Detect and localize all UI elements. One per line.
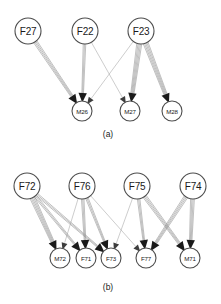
node-label-M72: M72 <box>54 255 66 262</box>
edge-line <box>148 42 167 93</box>
edge-F23-to-M26 <box>87 41 133 104</box>
edge-F76-to-F73 <box>86 198 108 251</box>
node-label-F23: F23 <box>133 26 150 37</box>
edge-line <box>116 198 132 243</box>
node-F77[interactable]: F77 <box>136 248 156 268</box>
edge-line <box>34 43 71 97</box>
edge-line <box>134 44 142 93</box>
node-label-F74: F74 <box>185 181 202 192</box>
edge-F22-to-M27 <box>91 42 125 103</box>
edge-F22-to-M26 <box>78 44 86 103</box>
panel-caption-panel-a: (a) <box>103 129 114 139</box>
node-M72[interactable]: M72 <box>50 248 70 268</box>
node-M71[interactable]: M71 <box>180 248 200 268</box>
node-M26[interactable]: M26 <box>72 101 92 121</box>
node-label-F73: F73 <box>106 255 117 262</box>
edge-line <box>35 197 54 241</box>
edge-F72-to-M72 <box>30 197 56 250</box>
node-label-F27: F27 <box>20 26 37 37</box>
node-label-M27: M27 <box>124 108 136 115</box>
node-label-F72: F72 <box>19 181 36 192</box>
edge-line <box>36 41 72 95</box>
panel-caption-panel-b: (b) <box>103 282 114 292</box>
edge-F76-to-F71 <box>81 199 89 250</box>
edge-F23-to-M27 <box>128 44 141 103</box>
panel-a-edge-layer <box>34 41 170 104</box>
edge-line <box>38 194 98 246</box>
panel-b: F72F76F75F74M72F71F73F77M71(b) <box>14 173 206 292</box>
edge-line <box>147 43 166 94</box>
node-F74[interactable]: F74 <box>180 173 206 199</box>
edge-line <box>34 197 74 245</box>
edge-line <box>145 44 165 95</box>
node-F23[interactable]: F23 <box>128 18 154 44</box>
edge-line <box>91 42 122 97</box>
edge-line <box>88 198 105 241</box>
edge-F75-to-F73 <box>113 198 132 250</box>
panel-a: F27F22F23M26M27M28(a) <box>15 18 182 139</box>
pedigree-network-figure: F27F22F23M26M27M28(a)F72F76F75F74M72F71F… <box>0 0 221 304</box>
edge-line <box>145 196 179 243</box>
edge-F72-to-F71 <box>34 195 80 251</box>
node-F71[interactable]: F71 <box>76 248 96 268</box>
edge-F75-to-F77 <box>137 199 148 250</box>
figure-canvas: F27F22F23M26M27M28(a)F72F76F75F74M72F71F… <box>0 0 221 304</box>
node-label-F22: F22 <box>77 26 94 37</box>
edge-line <box>143 44 164 95</box>
edge-line <box>35 42 72 96</box>
node-label-F75: F75 <box>129 181 146 192</box>
node-F75[interactable]: F75 <box>124 173 150 199</box>
edge-line <box>143 198 178 245</box>
edge-line <box>92 41 134 98</box>
edge-F74-to-M71 <box>187 199 195 250</box>
node-F72[interactable]: F72 <box>14 173 40 199</box>
node-F73[interactable]: F73 <box>101 248 121 268</box>
node-label-F76: F76 <box>74 181 91 192</box>
edge-F27-to-M26 <box>34 41 78 104</box>
node-label-F77: F77 <box>141 255 152 262</box>
node-M27[interactable]: M27 <box>120 101 140 121</box>
edge-line <box>156 197 186 243</box>
node-F27[interactable]: F27 <box>15 18 41 44</box>
edge-line <box>146 43 166 94</box>
edge-line <box>157 198 188 244</box>
node-F76[interactable]: F76 <box>69 173 95 199</box>
edge-line <box>87 198 104 241</box>
node-F22[interactable]: F22 <box>72 18 98 44</box>
node-label-F71: F71 <box>81 255 92 262</box>
node-M28[interactable]: M28 <box>162 101 182 121</box>
node-label-M28: M28 <box>166 108 178 115</box>
edge-line <box>65 198 79 242</box>
edge-F23-to-M28 <box>143 42 169 103</box>
edge-F75-to-M71 <box>143 195 185 251</box>
edge-line <box>146 195 180 242</box>
edge-line <box>32 198 52 242</box>
node-label-M26: M26 <box>76 108 88 115</box>
edge-line <box>139 199 144 240</box>
panel-b-edge-layer <box>30 194 195 253</box>
edge-line <box>37 41 73 96</box>
node-label-M71: M71 <box>184 255 196 262</box>
edge-line <box>86 199 104 242</box>
